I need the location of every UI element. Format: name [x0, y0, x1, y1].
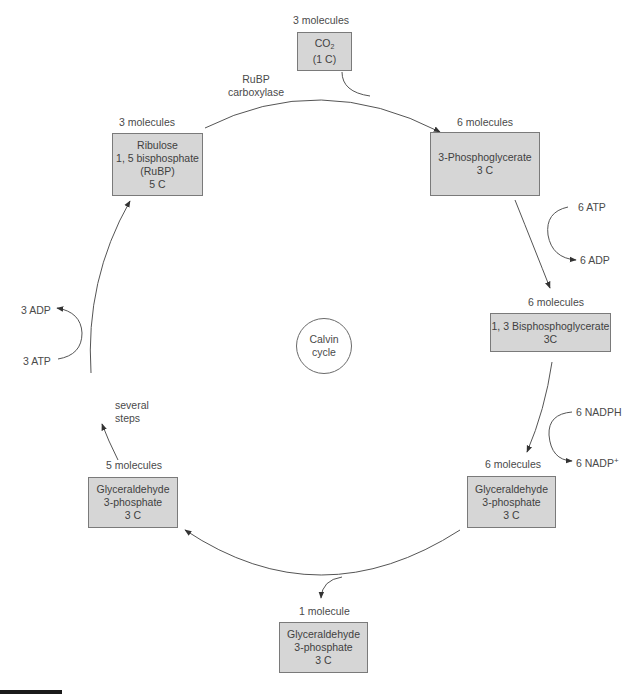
co2-carbons: (1 C)	[313, 53, 336, 66]
arrow-several-steps	[102, 424, 118, 460]
pga-count: 6 molecules	[457, 116, 513, 129]
arrow-atp-adp-left	[57, 308, 82, 359]
arrow-g3p-output	[321, 577, 342, 598]
atp-in-right: 6 ATP	[578, 201, 606, 214]
arrow-nadph-nadp	[549, 412, 572, 461]
arrow-co2-join	[342, 72, 370, 96]
g3p-right-count: 6 molecules	[485, 458, 541, 471]
figure-caption-bar	[0, 690, 62, 694]
calvin-cycle-center: Calvin cycle	[296, 318, 352, 374]
arrow-g3p-to-g3p	[185, 530, 460, 575]
g3p-out-count: 1 molecule	[299, 605, 350, 618]
co2-count: 3 molecules	[293, 14, 349, 27]
node-3-phosphoglycerate: 3-Phosphoglycerate 3 C	[430, 132, 540, 196]
node-bisphosphoglycerate: 1, 3 Bisphosphoglycerate 3C	[490, 313, 611, 352]
node-co2: CO2 (1 C)	[297, 32, 352, 71]
rubp-count: 3 molecules	[119, 116, 175, 129]
arrow-bpg-to-g3p	[527, 362, 552, 452]
enzyme-label: RuBP carboxylase	[221, 73, 291, 99]
several-steps-label: several steps	[115, 399, 149, 425]
arrow-steps-to-rubp	[90, 201, 130, 373]
g3p-left-count: 5 molecules	[106, 459, 162, 472]
co2-formula: CO2	[315, 37, 335, 53]
arrow-rubp-to-pga	[205, 100, 440, 132]
node-g3p-right: Glyceraldehyde 3-phosphate 3 C	[467, 476, 556, 528]
nadp-out: 6 NADP+	[576, 454, 619, 470]
nadph-in: 6 NADPH	[576, 406, 622, 419]
adp-out-left: 3 ADP	[21, 304, 51, 317]
bpg-count: 6 molecules	[528, 296, 584, 309]
node-g3p-output: Glyceraldehyde 3-phosphate 3 C	[279, 622, 368, 673]
adp-out-right: 6 ADP	[580, 254, 610, 267]
node-rubp: Ribulose 1, 5 bisphosphate (RuBP) 5 C	[112, 133, 203, 196]
arrow-pga-to-bpg	[515, 200, 550, 288]
node-g3p-left: Glyceraldehyde 3-phosphate 3 C	[88, 477, 178, 528]
atp-in-left: 3 ATP	[23, 355, 51, 368]
arrow-atp-adp-right	[548, 207, 576, 260]
